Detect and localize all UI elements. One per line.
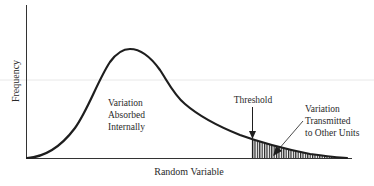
distribution-curve [27, 49, 347, 158]
svg-text:to Other Units: to Other Units [305, 128, 360, 138]
threshold-annotation: Threshold [234, 95, 273, 139]
y-axis-label: Frequency [10, 60, 21, 102]
x-axis-label: Random Variable [154, 166, 224, 177]
svg-text:Variation: Variation [108, 98, 143, 108]
transmitted-pointer [278, 121, 303, 150]
svg-text:Transmitted: Transmitted [305, 116, 351, 126]
svg-text:Internally: Internally [108, 122, 145, 132]
distribution-diagram: Frequency Random Variable Variation Abso… [0, 0, 374, 186]
svg-text:Threshold: Threshold [234, 95, 273, 105]
svg-text:Variation: Variation [305, 104, 340, 114]
absorbed-annotation: Variation Absorbed Internally [108, 98, 145, 132]
svg-text:Absorbed: Absorbed [108, 110, 145, 120]
